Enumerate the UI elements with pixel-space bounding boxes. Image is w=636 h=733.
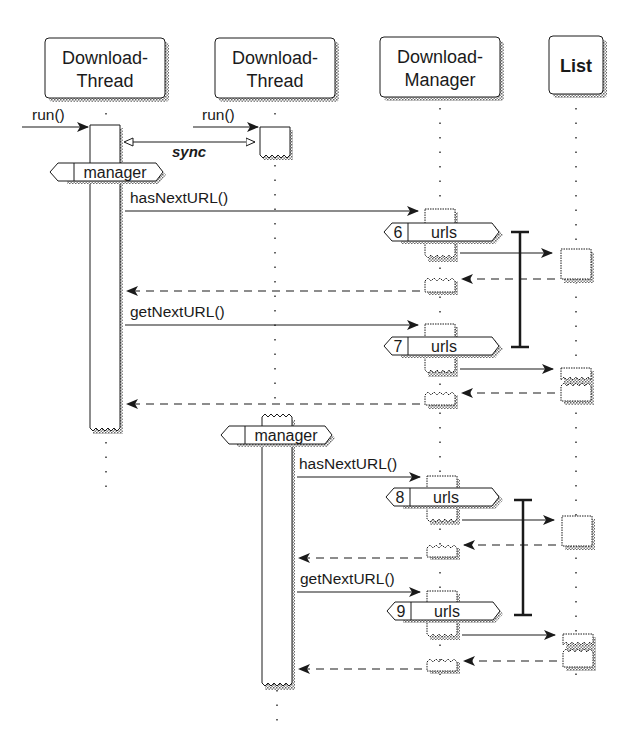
message-label: getNextURL() <box>300 570 395 587</box>
activation-dm-8-return <box>427 545 460 560</box>
activation-list-4 <box>563 634 596 671</box>
tag-label: manager <box>83 164 147 181</box>
header-label: List <box>560 56 592 76</box>
message-getnexturl-1: getNextURL() <box>125 303 418 325</box>
lifeline-header-download-thread-2: Download- Thread <box>215 38 339 102</box>
activation-bar-thread-2-blocked <box>260 127 293 160</box>
header-label-line1: Download- <box>397 47 483 67</box>
sync-link: sync <box>125 142 255 160</box>
tag-label: urls <box>434 603 460 620</box>
field-access-tag-urls-7: 7 urls <box>384 337 503 358</box>
lifeline-header-download-thread-1: Download- Thread <box>45 38 169 102</box>
field-access-tag-urls-9: 9 urls <box>387 602 503 623</box>
message-label: hasNextURL() <box>299 455 397 472</box>
message-label: run() <box>32 106 65 123</box>
header-label-line2: Thread <box>76 71 133 91</box>
message-hasnexturl-1: hasNextURL() <box>125 189 418 211</box>
header-label-line1: Download- <box>62 48 148 68</box>
tag-number: 6 <box>394 224 403 241</box>
field-access-tag-urls-8: 8 urls <box>386 488 503 509</box>
message-run-2: run() <box>193 106 258 127</box>
message-label: run() <box>202 106 235 123</box>
message-label: getNextURL() <box>130 303 225 320</box>
tag-label: urls <box>433 489 459 506</box>
tag-label: urls <box>431 338 457 355</box>
activation-dm-7-return <box>425 392 458 409</box>
tag-label: manager <box>254 427 318 444</box>
activation-list-2 <box>561 368 594 405</box>
sequence-diagram: Download- Thread Download- Thread Downlo… <box>0 0 636 733</box>
activation-bar-thread-2 <box>262 414 295 690</box>
tag-label: urls <box>431 224 457 241</box>
tag-number: 7 <box>394 338 403 355</box>
field-access-tag-manager-1: manager <box>50 163 166 184</box>
lifeline-header-list: List <box>549 36 607 98</box>
message-label: hasNextURL() <box>130 189 228 206</box>
tag-number: 8 <box>396 489 405 506</box>
field-access-tag-manager-2: manager <box>221 426 335 447</box>
activation-list-1 <box>561 249 594 283</box>
sync-label: sync <box>172 143 207 160</box>
interval-constraint-1 <box>511 232 529 347</box>
field-access-tag-urls-6: 6 urls <box>384 223 503 244</box>
tag-number: 9 <box>397 603 406 620</box>
lifeline-header-download-manager: Download- Manager <box>380 37 504 101</box>
header-label-line2: Thread <box>246 71 303 91</box>
header-label-line1: Download- <box>232 48 318 68</box>
header-label-line2: Manager <box>404 70 475 90</box>
activation-dm-9-return <box>427 659 460 674</box>
activation-dm-6-return <box>425 278 458 295</box>
interval-constraint-2 <box>514 500 532 615</box>
message-run-1: run() <box>22 106 88 127</box>
message-hasnexturl-2: hasNextURL() <box>297 455 420 477</box>
activation-list-3 <box>562 516 595 550</box>
message-getnexturl-2: getNextURL() <box>297 570 420 592</box>
